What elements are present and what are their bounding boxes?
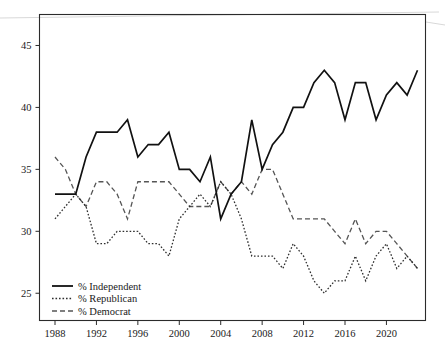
- x-tick-label: 2012: [293, 328, 314, 339]
- y-axis-ticks: 2530354045: [21, 40, 40, 299]
- plot-frame: [40, 15, 426, 321]
- y-tick-label: 40: [21, 102, 32, 113]
- series-line-independent: [55, 70, 418, 219]
- y-tick-label: 35: [21, 164, 32, 175]
- x-tick-label: 2008: [252, 328, 273, 339]
- y-tick-label: 30: [21, 226, 32, 237]
- series-line-democrat: [55, 157, 418, 269]
- legend-label-independent: % Independent: [78, 281, 141, 292]
- y-tick-label: 25: [21, 288, 32, 299]
- x-tick-label: 2016: [335, 328, 356, 339]
- x-tick-label: 1992: [86, 328, 107, 339]
- chart-legend: % Independent % Republican % Democrat: [52, 281, 141, 317]
- x-tick-label: 1988: [45, 328, 66, 339]
- chart-figure: 2530354045 19881992199620002004200820122…: [0, 0, 445, 356]
- party-identification-line-chart: 2530354045 19881992199620002004200820122…: [0, 0, 445, 356]
- legend-label-democrat: % Democrat: [78, 306, 131, 317]
- x-axis-ticks: 198819921996200020042008201220162020: [45, 321, 397, 339]
- series-group: [55, 70, 418, 293]
- legend-label-republican: % Republican: [78, 293, 138, 304]
- x-tick-label: 2004: [210, 328, 232, 339]
- y-tick-label: 45: [21, 40, 32, 51]
- x-tick-label: 2020: [376, 328, 397, 339]
- x-tick-label: 1996: [127, 328, 148, 339]
- x-tick-label: 2000: [169, 328, 190, 339]
- page-edge-artifact-right: [426, 22, 445, 25]
